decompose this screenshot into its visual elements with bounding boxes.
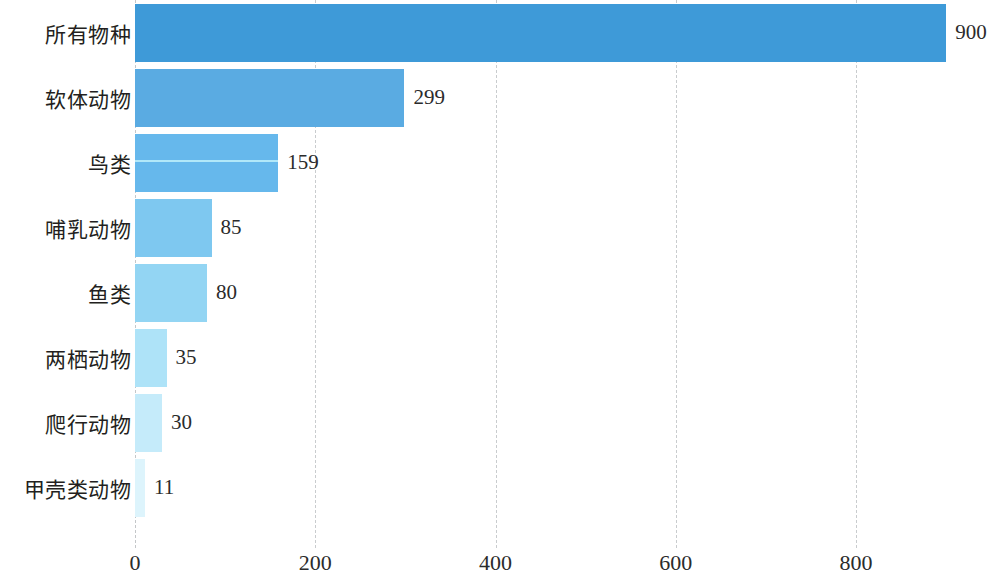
bar-and-value: 30: [135, 390, 192, 455]
bar-row: 爬行动物30: [0, 390, 997, 455]
bar-and-value: 35: [135, 325, 197, 390]
x-axis: 0200400600800: [0, 548, 997, 588]
bar-value-label: 35: [176, 345, 197, 370]
bar[interactable]: [135, 264, 207, 322]
bar[interactable]: [135, 394, 162, 452]
bar-value-label: 299: [413, 85, 445, 110]
category-label: 鸟类: [3, 130, 131, 195]
category-label-wrap: 鱼类: [0, 260, 131, 325]
bar-value-label: 30: [171, 410, 192, 435]
bar-rows: 所有物种900软体动物299鸟类159哺乳动物85鱼类80两栖动物35爬行动物3…: [0, 0, 997, 520]
bar[interactable]: [135, 459, 145, 517]
x-tick-label: 0: [130, 550, 141, 576]
bar-and-value: 159: [135, 130, 319, 195]
bar-value-label: 159: [287, 150, 319, 175]
x-tick-label: 400: [479, 550, 512, 576]
category-label-wrap: 软体动物: [0, 65, 131, 130]
bar[interactable]: [135, 134, 278, 192]
bar-and-value: 11: [135, 455, 174, 520]
bar-highlight-streak: [135, 160, 278, 162]
category-label: 爬行动物: [3, 390, 131, 455]
plot-area: 所有物种900软体动物299鸟类159哺乳动物85鱼类80两栖动物35爬行动物3…: [0, 0, 997, 535]
bar-value-label: 900: [955, 20, 987, 45]
category-label: 软体动物: [3, 65, 131, 130]
category-label: 鱼类: [3, 260, 131, 325]
category-label: 两栖动物: [3, 325, 131, 390]
bar-row: 鸟类159: [0, 130, 997, 195]
bar-row: 两栖动物35: [0, 325, 997, 390]
bar[interactable]: [135, 199, 212, 257]
bar[interactable]: [135, 4, 946, 62]
category-label-wrap: 鸟类: [0, 130, 131, 195]
bar[interactable]: [135, 329, 167, 387]
bar-and-value: 80: [135, 260, 237, 325]
bar-row: 软体动物299: [0, 65, 997, 130]
category-label: 甲壳类动物: [3, 455, 131, 520]
bar-chart: 所有物种900软体动物299鸟类159哺乳动物85鱼类80两栖动物35爬行动物3…: [0, 0, 997, 588]
bar-value-label: 11: [154, 475, 174, 500]
bar-and-value: 299: [135, 65, 445, 130]
bar-and-value: 85: [135, 195, 242, 260]
bar-row: 甲壳类动物11: [0, 455, 997, 520]
category-label: 所有物种: [3, 0, 131, 65]
bar-value-label: 80: [216, 280, 237, 305]
category-label-wrap: 哺乳动物: [0, 195, 131, 260]
category-label-wrap: 甲壳类动物: [0, 455, 131, 520]
category-label-wrap: 所有物种: [0, 0, 131, 65]
x-tick-label: 600: [659, 550, 692, 576]
category-label-wrap: 爬行动物: [0, 390, 131, 455]
bar-row: 哺乳动物85: [0, 195, 997, 260]
category-label: 哺乳动物: [3, 195, 131, 260]
bar-row: 鱼类80: [0, 260, 997, 325]
bar-row: 所有物种900: [0, 0, 997, 65]
bar[interactable]: [135, 69, 404, 127]
bar-value-label: 85: [221, 215, 242, 240]
bar-and-value: 900: [135, 0, 987, 65]
category-label-wrap: 两栖动物: [0, 325, 131, 390]
x-tick-label: 800: [840, 550, 873, 576]
x-tick-label: 200: [299, 550, 332, 576]
